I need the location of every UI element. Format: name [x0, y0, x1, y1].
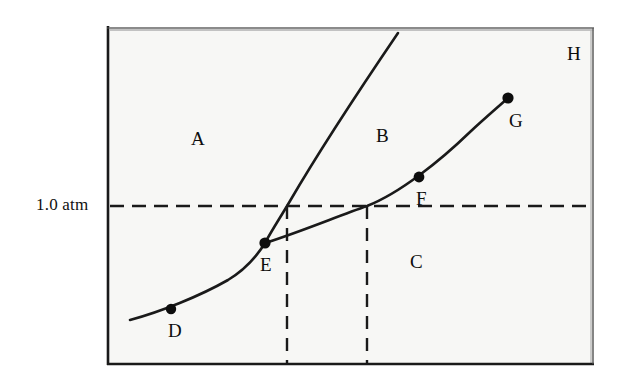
point-label-F: F [416, 188, 427, 210]
plot-area-background [108, 28, 593, 364]
point-D-marker [166, 304, 176, 314]
region-label-B: B [376, 125, 389, 147]
point-E-marker [259, 237, 270, 248]
region-label-C: C [410, 251, 423, 273]
point-label-D: D [168, 320, 182, 342]
phase-diagram-figure: 1.0 atm A B C H D E F G [0, 0, 623, 386]
region-label-H: H [567, 43, 581, 65]
phase-diagram-canvas [0, 0, 623, 386]
pressure-axis-tick-label: 1.0 atm [36, 195, 88, 215]
region-label-A: A [191, 128, 205, 150]
point-label-G: G [509, 110, 523, 132]
point-G-marker [502, 92, 513, 103]
point-F-marker [414, 172, 425, 183]
point-label-E: E [260, 254, 272, 276]
